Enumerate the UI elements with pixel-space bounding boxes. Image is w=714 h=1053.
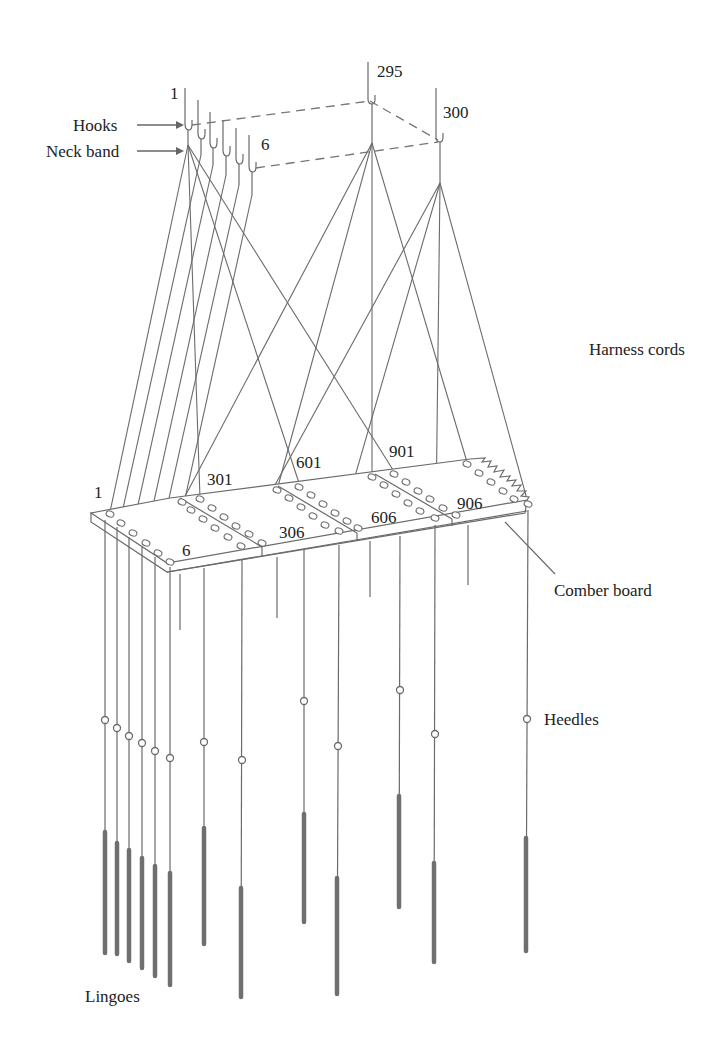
heddle-eye xyxy=(397,687,404,694)
hook-1 xyxy=(185,88,192,130)
heddle-eye xyxy=(239,757,246,764)
dashed-hook-line-top xyxy=(192,101,370,125)
hook-number-6: 6 xyxy=(261,135,270,154)
heddle-eye xyxy=(126,733,133,740)
neck-band-arrowhead-icon xyxy=(176,147,184,155)
hooks-arrowhead-icon xyxy=(176,121,184,129)
label-comber-board: Comber board xyxy=(554,581,652,600)
heddle-eye xyxy=(335,743,342,750)
hook-number-1: 1 xyxy=(170,84,179,103)
hook-2 xyxy=(198,100,205,139)
label-hooks: Hooks xyxy=(73,116,117,135)
board-number-906: 906 xyxy=(457,494,483,513)
hooks-group-1-6 xyxy=(185,88,256,172)
board-number-606: 606 xyxy=(371,508,397,527)
comber-board-leader xyxy=(505,522,555,574)
hook-6 xyxy=(249,135,256,172)
board-number-301: 301 xyxy=(207,470,233,489)
hook-4 xyxy=(223,120,230,156)
dashed-guides xyxy=(192,101,438,168)
hook-number-295: 295 xyxy=(377,62,403,81)
heddles xyxy=(102,510,531,998)
hook-3 xyxy=(210,112,217,148)
heddle-eye xyxy=(114,725,121,732)
dashed-hook-line-right xyxy=(370,101,438,140)
heddle-eye xyxy=(201,739,208,746)
hook-295 xyxy=(368,62,375,104)
label-heddles: Heedles xyxy=(544,710,599,729)
heddle-eye xyxy=(139,740,146,747)
label-neck-band: Neck band xyxy=(46,142,120,161)
comber-board[interactable] xyxy=(91,458,555,574)
board-number-601: 601 xyxy=(296,453,322,472)
hook-5 xyxy=(236,128,243,164)
heddle-eye xyxy=(152,748,159,755)
board-number-6: 6 xyxy=(182,541,191,560)
board-number-306: 306 xyxy=(279,523,305,542)
board-number-901: 901 xyxy=(389,442,415,461)
heddle-eye xyxy=(432,731,439,738)
board-number-1: 1 xyxy=(94,483,103,502)
heddle-eye xyxy=(167,755,174,762)
label-harness-cords: Harness cords xyxy=(589,340,685,359)
label-lingoes: Lingoes xyxy=(85,987,140,1006)
dashed-neckband-line xyxy=(256,142,438,168)
label-arrows xyxy=(137,121,184,155)
jacquard-harness-diagram: Hooks Neck band Harness cords Comber boa… xyxy=(0,0,714,1053)
neck-cords xyxy=(188,104,440,195)
hook-300 xyxy=(436,88,443,142)
heddle-eye xyxy=(301,698,308,705)
heddle-eye xyxy=(524,716,531,723)
heddle-eye xyxy=(102,717,109,724)
hook-number-300: 300 xyxy=(443,103,469,122)
